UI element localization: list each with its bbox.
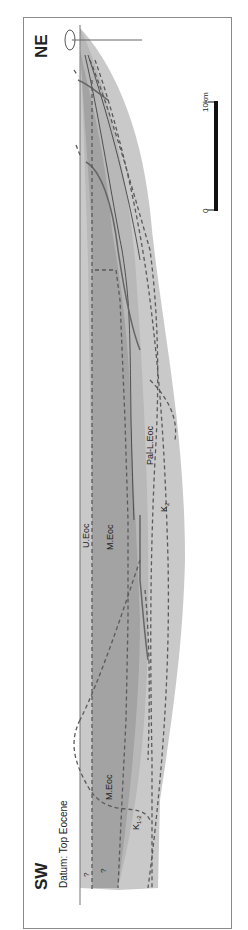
datum-label: Datum: Top Eocene [58,800,69,888]
unit-label-ueoc: U.Eoc [81,523,91,548]
uncertain-mark: ? [82,872,91,877]
unit-label-pal-leoc: Pal-L.Eoc [145,425,155,465]
unit-label-meoc: M.Eoc [105,524,115,550]
unit-label-meoc-sw: M.Eoc [104,774,114,800]
scale-label-10km: 10km [201,92,210,112]
ne-label: NE [32,34,51,58]
sw-label: SW [32,862,51,890]
scale-bar [214,101,218,211]
uncertain-mark-2: ? [99,868,108,873]
scale-label-0: 0 [201,208,210,213]
cross-section-svg: NE SW Datum: Top Eocene U.Eoc M.Eoc M.Eo… [0,0,248,930]
